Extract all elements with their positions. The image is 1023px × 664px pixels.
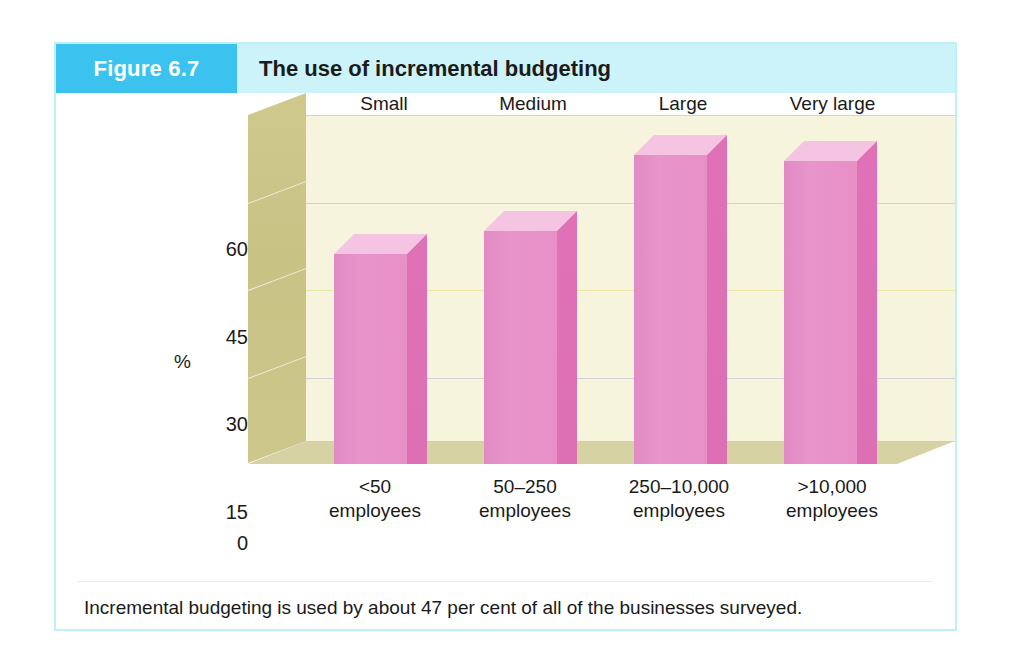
size-label-small: Small (334, 93, 434, 115)
y-tick-label: 45 (208, 327, 248, 347)
bar-front-face (634, 155, 707, 464)
x-axis-label-medium: 50–250 employees (454, 475, 596, 524)
figure-number-label: Figure 6.7 (94, 56, 200, 82)
caption-divider (78, 581, 933, 582)
x-axis-label-line1: <50 (304, 475, 446, 499)
x-axis-label-line2: employees (600, 499, 758, 523)
x-axis-label-line2: employees (454, 499, 596, 523)
figure-number-block: Figure 6.7 (56, 44, 237, 93)
chart-3d-scene: Small Medium Large Very large <50 employ… (248, 93, 955, 579)
bar-side-face (557, 211, 577, 464)
y-axis-tick-labels: 60 45 30 15 0 (156, 93, 248, 579)
x-axis-label-very-large: >10,000 employees (758, 475, 906, 524)
y-tick-label: 0 (208, 533, 248, 553)
x-axis-label-line2: employees (304, 499, 446, 523)
bar-side-face (857, 141, 877, 464)
x-axis-label-small: <50 employees (304, 475, 446, 524)
x-axis-label-line2: employees (758, 499, 906, 523)
y-tick-label: 60 (208, 239, 248, 259)
figure-title: The use of incremental budgeting (259, 56, 611, 82)
chart-area: % 60 45 30 15 0 (56, 93, 955, 579)
x-axis-label-large: 250–10,000 employees (600, 475, 758, 524)
x-axis-label-line1: 250–10,000 (600, 475, 758, 499)
y-tick-label: 30 (208, 414, 248, 434)
x-axis-label-line1: 50–250 (454, 475, 596, 499)
size-label-medium: Medium (478, 93, 588, 115)
figure-header: Figure 6.7 The use of incremental budget… (56, 44, 955, 93)
bar-small[interactable] (334, 234, 407, 464)
bar-front-face (334, 254, 407, 464)
bar-front-face (484, 231, 557, 464)
y-tick-label: 15 (208, 502, 248, 522)
bar-side-face (707, 135, 727, 464)
bar-side-face (407, 234, 427, 464)
size-label-very-large: Very large (770, 93, 895, 115)
bar-front-face (784, 161, 857, 464)
figure-frame: Figure 6.7 The use of incremental budget… (54, 42, 957, 631)
bar-medium[interactable] (484, 211, 557, 464)
bar-very-large[interactable] (784, 141, 857, 464)
figure-title-block: The use of incremental budgeting (237, 44, 955, 93)
size-label-large: Large (633, 93, 733, 115)
bar-large[interactable] (634, 135, 707, 464)
x-axis-label-line1: >10,000 (758, 475, 906, 499)
figure-caption: Incremental budgeting is used by about 4… (84, 597, 929, 619)
